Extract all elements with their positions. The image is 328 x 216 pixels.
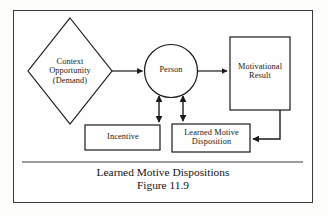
figure-caption-title: Learned Motive Dispositions — [22, 166, 304, 179]
figure-caption-number: Figure 11.9 — [22, 179, 304, 192]
figure-page: Context Opportunity (Demand) Person Moti… — [0, 0, 328, 216]
figure-caption: Learned Motive Dispositions Figure 11.9 — [22, 166, 304, 193]
